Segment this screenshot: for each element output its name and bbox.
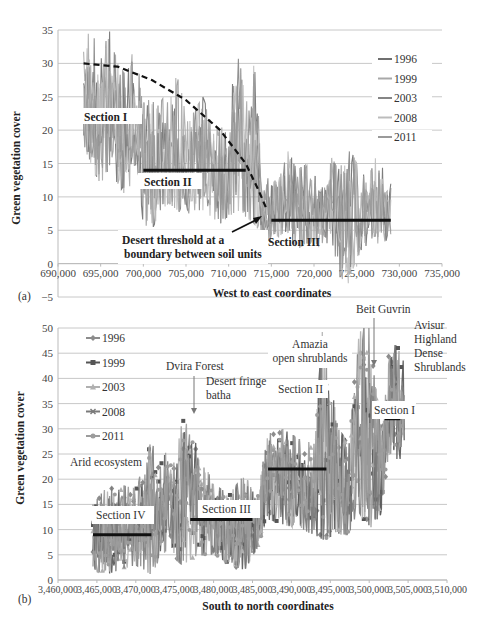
marker-circle	[203, 552, 207, 556]
annotation-amazia-2: open shrublands	[272, 352, 348, 365]
annotation-avisur-1: Avisur	[414, 319, 445, 331]
marker-circle	[380, 448, 384, 452]
marker-circle	[318, 404, 322, 408]
y-axis-ticks: 05101520253035404550	[42, 322, 54, 586]
marker-circle	[384, 467, 388, 471]
marker-circle	[159, 539, 163, 543]
annotation-avisur-3: Dense	[414, 347, 443, 359]
marker-circle	[172, 512, 176, 516]
legend: 19961999200320082011	[372, 52, 432, 145]
marker-circle	[141, 525, 145, 529]
marker-circle	[362, 356, 366, 360]
y-tick-label: 35	[42, 24, 54, 36]
y-tick-label: 45	[42, 347, 54, 359]
marker-circle	[312, 479, 316, 483]
marker-circle	[368, 490, 372, 494]
y-tick-label: 15	[42, 158, 54, 170]
x-tick-label: 725,000	[339, 267, 375, 279]
annotation-desert-threshold-1: Desert threshold at a	[122, 234, 225, 246]
annotation-avisur-4: Shrublands	[414, 361, 466, 373]
y-tick-label: 25	[42, 448, 54, 460]
marker-circle	[113, 492, 117, 496]
marker-square	[228, 493, 232, 497]
section-i-label: Section I	[84, 111, 128, 123]
x-tick-label: 690,000	[40, 267, 76, 279]
x-tick-label: 3,490,000	[271, 584, 311, 595]
marker-circle	[399, 424, 403, 428]
x-tick-label: 705,000	[168, 267, 204, 279]
marker-circle	[324, 536, 328, 540]
annotation-desert-fringe-2: batha	[206, 389, 231, 401]
marker-circle	[272, 448, 276, 452]
y-tick-label: 35	[42, 398, 54, 410]
x-tick-label: 710,000	[211, 267, 247, 279]
marker-diamond	[318, 532, 323, 538]
chart-panel-b: 05101520253035404550 3,460,0003,465,0003…	[0, 300, 482, 627]
marker-circle	[234, 541, 238, 545]
legend-label-2008: 2008	[102, 406, 125, 418]
marker-square	[159, 461, 163, 465]
legend: 19961999200320082011	[80, 331, 140, 444]
marker-circle	[377, 452, 381, 456]
legend-label-2003: 2003	[394, 92, 417, 104]
marker-circle	[300, 503, 304, 507]
marker-circle	[175, 493, 179, 497]
marker-circle	[331, 452, 335, 456]
annotation-desert-threshold-2: boundary between soil units	[124, 248, 262, 261]
marker-circle	[122, 549, 126, 553]
y-tick-label: 30	[42, 423, 54, 435]
x-tick-label: 3,500,000	[349, 584, 389, 595]
y-axis-label: Green vegetation cover	[14, 391, 27, 504]
marker-circle	[396, 434, 400, 438]
marker-circle	[393, 443, 397, 447]
y-tick-label: 15	[42, 498, 54, 510]
legend-label-1999: 1999	[394, 73, 417, 85]
legend-label-2011: 2011	[394, 131, 417, 143]
marker-circle	[237, 538, 241, 542]
x-axis-label: South to north coordinates	[202, 600, 334, 612]
marker-diamond	[271, 431, 276, 437]
legend-label-2003: 2003	[102, 381, 125, 393]
panel-label-b: (b)	[18, 593, 32, 606]
x-tick-label: 3,465,000	[77, 584, 117, 595]
marker-circle	[328, 456, 332, 460]
marker-circle	[194, 468, 198, 472]
annotation-dvira-forest: Dvira Forest	[166, 360, 225, 372]
x-tick-label: 695,000	[83, 267, 119, 279]
marker-circle	[116, 541, 120, 545]
x-tick-label: 720,000	[296, 267, 332, 279]
marker-square	[181, 419, 185, 423]
x-tick-label: 3,495,000	[310, 584, 350, 595]
marker-circle	[321, 515, 325, 519]
x-tick-label: 730,000	[381, 267, 417, 279]
marker-circle	[222, 495, 226, 499]
marker-square	[275, 519, 279, 523]
marker-circle	[247, 537, 251, 541]
marker-circle	[243, 493, 247, 497]
marker-circle	[390, 388, 394, 392]
marker-circle	[187, 528, 191, 532]
marker-circle	[209, 488, 213, 492]
marker-circle	[184, 501, 188, 505]
marker-circle	[349, 419, 353, 423]
legend-label-1999: 1999	[102, 357, 125, 369]
marker-circle	[169, 463, 173, 467]
marker-circle	[262, 481, 266, 485]
y-tick-label: 5	[48, 224, 54, 236]
marker-circle	[240, 524, 244, 528]
y-tick-label: 25	[42, 91, 54, 103]
marker-circle	[334, 436, 338, 440]
x-tick-label: 3,485,000	[233, 584, 273, 595]
marker-circle	[178, 457, 182, 461]
legend-marker-square-icon	[91, 360, 96, 365]
y-axis-label: Green vegetation cover	[10, 111, 23, 224]
section-iii-label: Section III	[268, 236, 321, 248]
annotation-desert-fringe-1: Desert fringe	[206, 375, 266, 388]
y-tick-label: 10	[42, 524, 54, 536]
marker-circle	[147, 456, 151, 460]
legend-label-2008: 2008	[394, 112, 417, 124]
x-tick-label: 3,480,000	[194, 584, 234, 595]
annotation-avisur-2: Highland	[414, 333, 457, 346]
y-tick-label: 20	[42, 124, 54, 136]
marker-circle	[268, 489, 272, 493]
